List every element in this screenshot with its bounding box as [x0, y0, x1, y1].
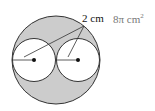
- center-dot-left: [32, 58, 36, 62]
- answer-text: 8π cm: [113, 13, 140, 25]
- answer-label: 8π cm2: [113, 12, 144, 25]
- center-dot-right: [76, 58, 80, 62]
- radius-label: 2 cm: [82, 12, 104, 24]
- answer-exponent: 2: [140, 12, 144, 20]
